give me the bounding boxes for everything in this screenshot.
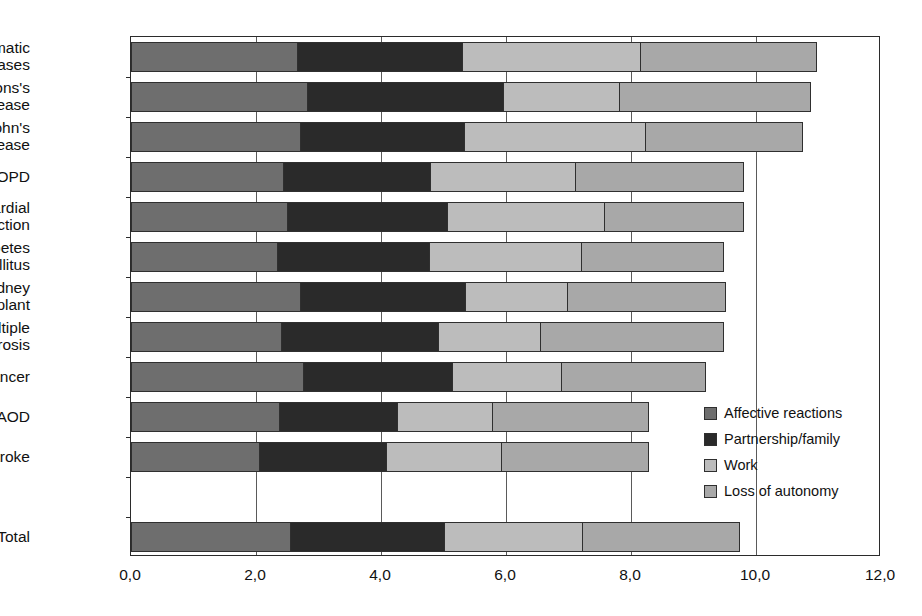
- chart-legend: Affective reactionsPartnership/familyWor…: [704, 400, 904, 504]
- x-axis-tick-label: 4,0: [369, 566, 391, 584]
- bar-segment: [300, 282, 466, 312]
- bar-segment: [386, 442, 502, 472]
- bar-row: [131, 402, 649, 432]
- bar-segment: [300, 122, 465, 152]
- bar-segment: [438, 322, 541, 352]
- bar-segment: [444, 522, 583, 552]
- y-axis-tick: [126, 437, 131, 438]
- bar-segment: [277, 242, 430, 272]
- bar-segment: [131, 442, 260, 472]
- legend-label: Partnership/family: [724, 431, 840, 447]
- bar-segment: [307, 82, 504, 112]
- bar-row: [131, 242, 724, 272]
- bar-row: [131, 162, 744, 192]
- bar-segment: [303, 362, 454, 392]
- bar-segment: [287, 202, 448, 232]
- legend-swatch-icon: [704, 459, 717, 472]
- y-axis-label: Rheumatic diseases: [0, 39, 30, 73]
- bar-segment: [447, 202, 605, 232]
- y-axis-label: Kidney transplant: [0, 279, 30, 313]
- legend-label: Work: [724, 457, 758, 473]
- x-axis-tick-label: 6,0: [494, 566, 516, 584]
- bar-segment: [283, 162, 431, 192]
- bar-segment: [567, 282, 726, 312]
- y-axis-label: COPD: [0, 168, 30, 185]
- bar-segment: [131, 122, 301, 152]
- y-axis-tick: [126, 517, 131, 518]
- legend-item[interactable]: Work: [704, 452, 904, 478]
- bar-row: [131, 42, 817, 72]
- y-axis-tick: [126, 317, 131, 318]
- y-axis-tick: [126, 197, 131, 198]
- bar-row: [131, 122, 803, 152]
- legend-label: Affective reactions: [724, 405, 842, 421]
- bar-segment: [430, 162, 576, 192]
- bar-row: [131, 322, 724, 352]
- legend-item[interactable]: Affective reactions: [704, 400, 904, 426]
- bar-segment: [297, 42, 463, 72]
- y-axis-tick: [126, 237, 131, 238]
- bar-segment: [429, 242, 582, 272]
- bar-segment: [131, 362, 304, 392]
- bar-segment: [131, 242, 278, 272]
- bar-segment: [131, 162, 284, 192]
- x-axis-tick-label: 2,0: [244, 566, 266, 584]
- y-axis-tick: [126, 397, 131, 398]
- y-axis-tick: [126, 77, 131, 78]
- y-axis-label: Multiple sclerosis: [0, 319, 30, 353]
- y-axis-label: Stroke: [0, 448, 30, 465]
- y-axis-label: Total: [0, 528, 30, 545]
- bar-segment: [397, 402, 494, 432]
- bar-segment: [462, 42, 641, 72]
- bar-row: [131, 442, 649, 472]
- y-axis-label: Diabetes mellitus: [0, 239, 30, 273]
- bar-segment: [131, 322, 282, 352]
- bar-segment: [604, 202, 744, 232]
- y-axis-label: Cancer: [0, 368, 30, 385]
- bar-segment: [290, 522, 445, 552]
- y-axis-tick: [126, 357, 131, 358]
- legend-swatch-icon: [704, 433, 717, 446]
- bar-segment: [645, 122, 803, 152]
- bar-row: [131, 202, 744, 232]
- x-axis-tick-label: 12,0: [865, 566, 895, 584]
- bar-segment: [619, 82, 811, 112]
- y-axis-label: Myocardial infarction: [0, 199, 30, 233]
- y-axis-tick: [126, 477, 131, 478]
- bar-segment: [452, 362, 562, 392]
- legend-label: Loss of autonomy: [724, 483, 838, 499]
- legend-item[interactable]: Partnership/family: [704, 426, 904, 452]
- y-axis-label: Crohn's disease: [0, 119, 30, 153]
- bar-segment: [561, 362, 706, 392]
- bar-segment: [259, 442, 387, 472]
- bar-segment: [575, 162, 744, 192]
- legend-swatch-icon: [704, 407, 717, 420]
- bar-segment: [492, 402, 648, 432]
- legend-item[interactable]: Loss of autonomy: [704, 478, 904, 504]
- stacked-bar-chart: Rheumatic diseasesParkinsons's diseaseCr…: [0, 0, 922, 616]
- bar-segment: [464, 122, 646, 152]
- bar-segment: [131, 282, 301, 312]
- bar-segment: [279, 402, 397, 432]
- x-axis-tick-label: 10,0: [740, 566, 770, 584]
- x-axis-tick-label: 8,0: [619, 566, 641, 584]
- bar-segment: [640, 42, 817, 72]
- bar-segment: [540, 322, 724, 352]
- bar-segment: [281, 322, 440, 352]
- bar-segment: [131, 402, 280, 432]
- y-axis-label: Parkinsons's disease: [0, 79, 30, 113]
- bar-segment: [465, 282, 569, 312]
- bar-segment: [131, 522, 291, 552]
- y-axis-tick: [126, 277, 131, 278]
- bar-segment: [581, 242, 724, 272]
- y-axis-tick: [126, 117, 131, 118]
- y-axis-label: PAOD: [0, 408, 30, 425]
- legend-swatch-icon: [704, 485, 717, 498]
- bar-segment: [131, 42, 298, 72]
- bar-segment: [582, 522, 740, 552]
- bar-row: [131, 362, 706, 392]
- bar-row: [131, 82, 811, 112]
- bar-segment: [503, 82, 621, 112]
- x-axis-tick-label: 0,0: [119, 566, 141, 584]
- bar-row: [131, 282, 726, 312]
